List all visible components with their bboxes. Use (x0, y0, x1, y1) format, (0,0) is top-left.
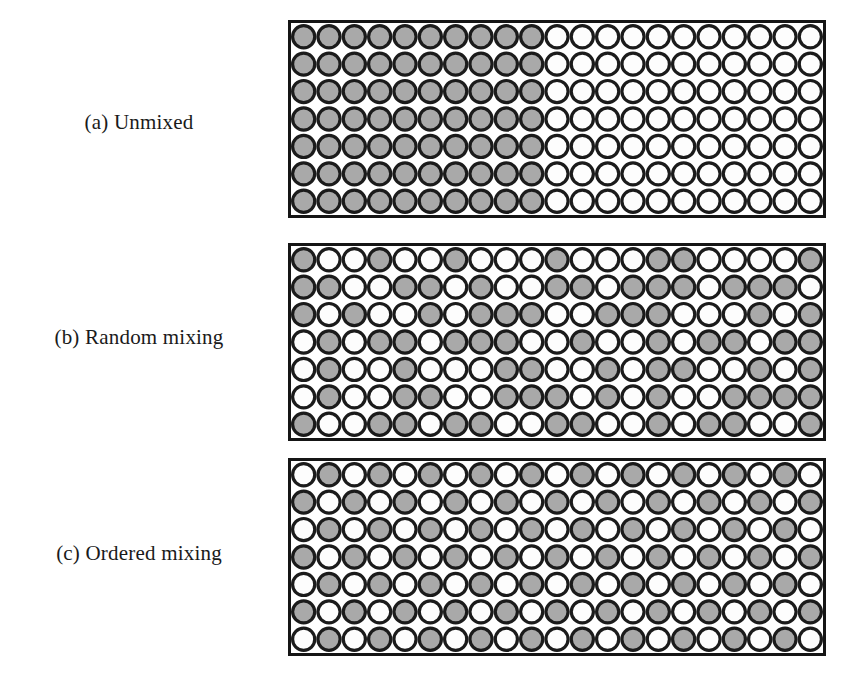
particle-gray (597, 491, 619, 513)
particle-white (597, 81, 619, 103)
particle-white (521, 249, 543, 271)
particle-gray (394, 491, 416, 513)
particle-white (749, 135, 771, 157)
particle-gray (470, 628, 492, 650)
particle-white (799, 53, 821, 75)
particle-gray (369, 163, 391, 185)
particle-white (343, 386, 365, 408)
particle-gray (521, 386, 543, 408)
particle-white (698, 81, 720, 103)
particle-white (622, 413, 644, 435)
particle-gray (546, 491, 568, 513)
particle-white (521, 546, 543, 568)
particle-white (571, 249, 593, 271)
particle-gray (369, 628, 391, 650)
particle-gray (470, 26, 492, 48)
particle-gray (394, 108, 416, 130)
particle-white (723, 546, 745, 568)
particle-gray (597, 601, 619, 623)
particle-white (495, 464, 517, 486)
particle-white (647, 135, 669, 157)
particle-white (723, 81, 745, 103)
particle-gray (470, 413, 492, 435)
particle-gray (673, 276, 695, 298)
particle-white (445, 358, 467, 380)
particle-white (546, 81, 568, 103)
particle-white (571, 190, 593, 212)
particle-gray (521, 135, 543, 157)
particle-gray (495, 135, 517, 157)
panel-label-c: (c) Ordered mixing (0, 541, 278, 566)
particle-white (622, 135, 644, 157)
particle-gray (394, 163, 416, 185)
particle-gray (343, 190, 365, 212)
particle-white (774, 358, 796, 380)
particle-white (647, 163, 669, 185)
particle-gray (293, 413, 315, 435)
particle-gray (445, 249, 467, 271)
particle-white (698, 519, 720, 541)
particle-white (698, 386, 720, 408)
particle-gray (647, 358, 669, 380)
particle-white (622, 81, 644, 103)
particle-gray (419, 53, 441, 75)
particle-gray (673, 464, 695, 486)
particle-white (673, 386, 695, 408)
particle-white (698, 190, 720, 212)
particle-white (723, 26, 745, 48)
particle-white (799, 190, 821, 212)
particle-gray (343, 53, 365, 75)
particle-white (495, 249, 517, 271)
particle-white (394, 519, 416, 541)
particle-gray (369, 464, 391, 486)
particle-white (495, 628, 517, 650)
particle-gray (622, 628, 644, 650)
particle-gray (799, 386, 821, 408)
particle-gray (419, 81, 441, 103)
particle-white (343, 331, 365, 353)
particle-white (673, 53, 695, 75)
particle-gray (470, 519, 492, 541)
particle-white (723, 53, 745, 75)
particle-gray (293, 108, 315, 130)
particle-gray (622, 464, 644, 486)
particle-gray (445, 81, 467, 103)
particle-white (470, 601, 492, 623)
particle-white (369, 601, 391, 623)
particle-white (546, 464, 568, 486)
particle-gray (749, 546, 771, 568)
particle-gray (318, 464, 340, 486)
particle-white (597, 249, 619, 271)
particle-white (799, 108, 821, 130)
particle-gray (419, 135, 441, 157)
particle-gray (445, 108, 467, 130)
particle-gray (369, 331, 391, 353)
particle-gray (723, 413, 745, 435)
particle-white (597, 413, 619, 435)
particle-gray (369, 26, 391, 48)
particle-gray (293, 81, 315, 103)
particle-gray (495, 304, 517, 326)
particle-white (723, 108, 745, 130)
particle-white (293, 358, 315, 380)
particle-gray (749, 276, 771, 298)
particle-white (293, 519, 315, 541)
particle-white (546, 573, 568, 595)
particle-gray (774, 573, 796, 595)
particle-white (799, 276, 821, 298)
particle-white (293, 628, 315, 650)
particle-white (622, 190, 644, 212)
particle-gray (749, 601, 771, 623)
particle-gray (293, 249, 315, 271)
particle-gray (622, 304, 644, 326)
particle-gray (293, 304, 315, 326)
particle-gray (571, 331, 593, 353)
particle-white (673, 601, 695, 623)
particle-white (419, 491, 441, 513)
particle-white (369, 304, 391, 326)
particle-white (749, 163, 771, 185)
particle-gray (647, 601, 669, 623)
particle-gray (546, 546, 568, 568)
particle-gray (647, 546, 669, 568)
particle-gray (470, 331, 492, 353)
